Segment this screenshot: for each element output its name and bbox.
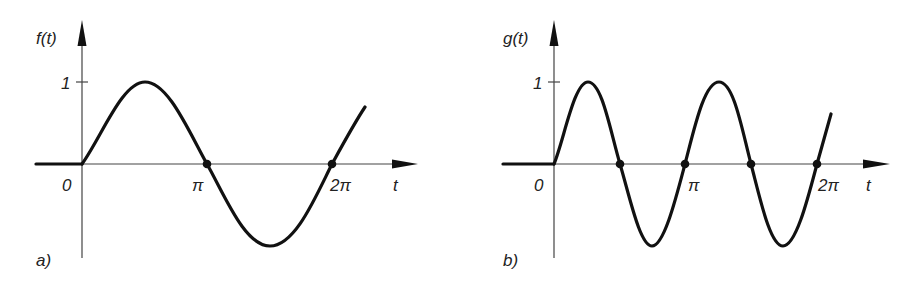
y-axis-label: f(t) xyxy=(36,29,57,48)
x-tick-label-pi: π xyxy=(688,176,700,195)
figure: f(t) 1 0 π 2π t a) g(t) 1 0 π 2π t b) xyxy=(0,0,914,284)
x-axis-arrow-icon xyxy=(392,160,418,169)
x-axis-label: t xyxy=(393,176,399,195)
zero-crossing-marker xyxy=(328,160,337,169)
x-axis-arrow-icon xyxy=(863,160,890,169)
y-axis-arrow-icon xyxy=(78,20,87,46)
x-tick-label-2pi: 2π xyxy=(329,176,351,195)
y-tick-label-one: 1 xyxy=(61,74,70,93)
x-tick-label-2pi: 2π xyxy=(817,176,839,195)
y-tick-label-one: 1 xyxy=(533,74,542,93)
panel-label: a) xyxy=(36,251,51,270)
panel-b: g(t) 1 0 π 2π t b) xyxy=(503,20,890,270)
x-axis-label: t xyxy=(866,176,872,195)
panel-label: b) xyxy=(503,251,518,270)
x-tick-label-zero: 0 xyxy=(62,176,72,195)
panel-a: f(t) 1 0 π 2π t a) xyxy=(36,20,418,270)
zero-crossing-marker xyxy=(813,160,822,169)
y-axis-arrow-icon xyxy=(550,20,559,46)
zero-crossing-marker xyxy=(747,160,756,169)
zero-crossing-marker xyxy=(203,160,212,169)
x-tick-label-pi: π xyxy=(192,176,204,195)
zero-crossing-marker xyxy=(616,160,625,169)
zero-crossing-marker xyxy=(681,160,690,169)
y-axis-label: g(t) xyxy=(503,29,529,48)
x-tick-label-zero: 0 xyxy=(534,176,544,195)
